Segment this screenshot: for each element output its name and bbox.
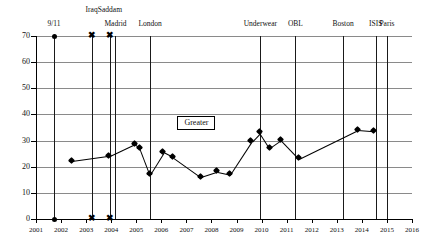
data-point: [248, 138, 255, 145]
event-line-madrid: [115, 36, 116, 219]
data-point: [227, 171, 234, 178]
data-point: [160, 149, 167, 156]
x-tick-mark: [186, 219, 187, 223]
y-tick-label: 20: [4, 163, 30, 171]
event-line-london: [150, 36, 151, 219]
event-dot-bottom: [52, 217, 57, 222]
x-marker-bottom: ✖: [88, 215, 95, 222]
x-tick-mark: [337, 219, 338, 223]
event-label-underwear: Underwear: [244, 20, 277, 28]
event-label-iraq: Iraq: [86, 6, 98, 14]
x-tick-mark: [312, 219, 313, 223]
y-tick-label: 0: [4, 215, 30, 223]
x-tick-mark: [387, 219, 388, 223]
chart-figure: 9/11IraqSaddamMadridLondonUnderwearOBLBo…: [0, 0, 433, 245]
event-dot-top: [52, 34, 57, 39]
event-label-london: London: [138, 20, 161, 28]
data-point: [198, 174, 205, 181]
x-tick-mark: [287, 219, 288, 223]
x-tick-mark: [86, 219, 87, 223]
y-tick-label: 50: [4, 84, 30, 92]
event-label-saddam: Saddam: [98, 6, 122, 14]
event-label-boston: Boston: [332, 20, 353, 28]
data-point: [278, 137, 285, 144]
event-line-iraq: [92, 36, 93, 219]
data-point: [296, 155, 303, 162]
data-point: [137, 145, 144, 152]
x-tick-mark: [412, 219, 413, 223]
x-marker-top: ✖: [106, 32, 113, 39]
x-tick-mark: [237, 219, 238, 223]
y-tick-label: 40: [4, 110, 30, 118]
x-tick-mark: [36, 219, 37, 223]
x-tick-mark: [161, 219, 162, 223]
data-point: [371, 128, 378, 135]
data-point: [69, 158, 76, 165]
annotation-greater: Greater: [177, 116, 215, 130]
data-point: [170, 154, 177, 161]
x-tick-mark: [136, 219, 137, 223]
data-point: [214, 168, 221, 175]
event-label-paris: Paris: [379, 20, 394, 28]
x-tick-mark: [211, 219, 212, 223]
x-tick-mark: [262, 219, 263, 223]
x-marker-bottom: ✖: [106, 215, 113, 222]
y-tick-label: 70: [4, 32, 30, 40]
event-line-obl: [295, 36, 296, 219]
x-tick-mark: [61, 219, 62, 223]
event-label-obl: OBL: [288, 20, 303, 28]
event-line-underwear: [260, 36, 261, 219]
event-label-9/11: 9/11: [48, 20, 61, 28]
data-point: [257, 129, 264, 136]
y-tick-label: 10: [4, 189, 30, 197]
x-marker-top: ✖: [88, 32, 95, 39]
event-line-saddam: [110, 36, 111, 219]
x-tick-mark: [362, 219, 363, 223]
data-point: [106, 153, 113, 160]
event-line-paris: [387, 36, 388, 219]
data-point: [355, 127, 362, 134]
event-label-madrid: Madrid: [104, 20, 126, 28]
event-line-boston: [343, 36, 344, 219]
data-point: [267, 145, 274, 152]
x-tick-label: 2016: [397, 227, 427, 234]
event-line-9/11: [54, 36, 55, 219]
y-tick-label: 30: [4, 137, 30, 145]
data-point: [147, 171, 154, 178]
y-tick-label: 60: [4, 58, 30, 66]
